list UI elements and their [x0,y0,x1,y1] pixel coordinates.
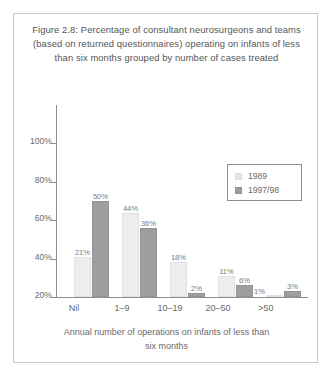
bar-value-1997-1-9: 36% [141,219,156,228]
bar-value-1997-nil: 50% [93,192,108,201]
bar-value-1989-10-19: 18% [171,253,186,262]
figure-title-line-3: than six months grouped by number of cas… [22,51,311,65]
bar-value-1989-nil: 21% [75,248,90,257]
bar-value-1997-over-50: 3% [287,282,298,291]
legend-label-1997-98: 1997/98 [248,185,279,195]
bar-1989-nil[interactable]: 21% [74,257,91,297]
y-axis-line [56,105,57,297]
bar-1997-10-19[interactable]: 2% [188,293,205,297]
chart-legend: 1989 1997/98 [227,164,302,201]
x-axis-title-line-2: six months [22,339,311,353]
x-axis-line [56,297,308,298]
legend-item-1989[interactable]: 1989 [235,170,267,182]
legend-item-1997-98[interactable]: 1997/98 [235,184,279,196]
y-tick-label-40: 40% [35,252,52,262]
x-axis-title-line-1: Annual number of operations on infants o… [22,325,311,339]
category-label-20-50: 20–50 [191,303,245,313]
figure-title: Figure 2.8: Percentage of consultant neu… [22,23,311,66]
bar-1989-20-50[interactable]: 11% [218,276,235,297]
x-axis-title: Annual number of operations on infants o… [22,325,311,353]
y-tick-label-20: 20% [35,290,52,300]
bar-value-1997-20-50: 6% [239,276,250,285]
category-label-over-50: >50 [239,303,293,313]
bar-1997-over-50[interactable]: 3% [284,291,301,297]
bar-1997-20-50[interactable]: 6% [236,285,253,297]
y-tick-label-100: 100% [30,136,52,146]
y-tick-label-80: 80% [35,175,52,185]
y-tick-label-60: 60% [35,213,52,223]
bar-value-1989-over-50: 1% [254,287,265,296]
bar-1989-10-19[interactable]: 18% [170,262,187,297]
bar-1989-1-9[interactable]: 44% [122,213,139,297]
bar-1997-nil[interactable]: 50% [92,201,109,297]
category-label-1-9: 1–9 [95,303,149,313]
bar-value-1989-1-9: 44% [123,204,138,213]
figure-title-line-2: (based on returned questionnaires) opera… [22,37,311,51]
bar-1989-over-50[interactable]: 1% [266,295,283,297]
legend-label-1989: 1989 [248,171,267,181]
legend-swatch-1997-98-icon [235,187,242,194]
legend-swatch-1989-icon [235,173,242,180]
figure-title-line-1: Figure 2.8: Percentage of consultant neu… [22,23,311,37]
category-label-nil: Nil [47,303,101,313]
figure-container: Figure 2.8: Percentage of consultant neu… [13,13,318,363]
category-label-10-19: 10–19 [143,303,197,313]
plot-area: 20% 40% 60% 80% 100% 21% 50% [56,105,308,297]
bar-value-1997-10-19: 2% [191,284,202,293]
bar-value-1989-20-50: 11% [219,267,234,276]
bar-1997-1-9[interactable]: 36% [140,228,157,297]
